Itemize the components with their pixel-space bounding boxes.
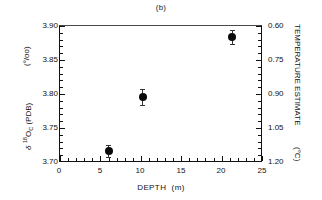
y-left-tick-label: 3.70 (0, 157, 58, 166)
y-right-tick-label: 1.05 (268, 123, 284, 132)
y-right-minor-tick (258, 53, 261, 54)
y-left-major-tick (60, 60, 65, 61)
carbonate-subscript: C (28, 127, 34, 131)
y-right-minor-tick (258, 33, 261, 34)
x-tick-label: 25 (247, 166, 277, 175)
x-minor-tick (149, 158, 150, 161)
y-left-minor-tick (60, 101, 63, 102)
y-left-minor-tick (60, 53, 63, 54)
y-right-minor-tick (258, 148, 261, 149)
y-right-minor-tick (258, 101, 261, 102)
y-left-major-tick (60, 128, 65, 129)
y-right-minor-tick (258, 80, 261, 81)
y-right-minor-tick (258, 114, 261, 115)
y-left-minor-tick (60, 148, 63, 149)
error-bar-cap (140, 89, 145, 90)
y-left-tick-label: 3.80 (0, 89, 58, 98)
x-minor-tick (189, 158, 190, 161)
delta-symbol: δ (24, 146, 33, 150)
y-right-tick-label: 0.90 (268, 89, 284, 98)
y-left-minor-tick (60, 74, 63, 75)
x-major-tick (141, 156, 142, 161)
y-right-minor-tick (258, 155, 261, 156)
x-minor-tick (173, 158, 174, 161)
error-bar-cap (106, 145, 111, 146)
x-minor-tick (76, 158, 77, 161)
x-minor-tick (133, 158, 134, 161)
y-right-minor-tick (258, 74, 261, 75)
x-axis-title: DEPTH (m) (0, 183, 322, 192)
x-major-tick (60, 156, 61, 161)
x-major-tick (100, 156, 101, 161)
y-left-axis-title: δ 18OC (PDB) (22, 103, 34, 150)
x-minor-tick (254, 158, 255, 161)
x-major-tick (262, 156, 263, 161)
y-right-minor-tick (258, 135, 261, 136)
y-left-minor-tick (60, 114, 63, 115)
y-right-tick-label: 0.75 (268, 55, 284, 64)
y-right-major-tick (256, 128, 261, 129)
x-minor-tick (165, 158, 166, 161)
x-axis-title-text: DEPTH (137, 183, 166, 192)
x-minor-tick (125, 158, 126, 161)
x-tick-label: 5 (85, 166, 115, 175)
x-minor-tick (214, 158, 215, 161)
y-left-major-tick (60, 94, 65, 95)
x-minor-tick (230, 158, 231, 161)
x-minor-tick (117, 158, 118, 161)
panel-title: (b) (0, 3, 322, 12)
y-left-minor-tick (60, 67, 63, 68)
x-major-tick (222, 156, 223, 161)
data-point (139, 93, 147, 101)
x-minor-tick (92, 158, 93, 161)
y-right-major-tick (256, 60, 261, 61)
y-left-minor-tick (60, 108, 63, 109)
y-right-minor-tick (258, 40, 261, 41)
data-point (228, 33, 236, 41)
y-right-major-tick (256, 161, 261, 162)
x-tick-label: 10 (125, 166, 155, 175)
x-minor-tick (197, 158, 198, 161)
y-left-major-tick (60, 26, 65, 27)
y-right-minor-tick (258, 87, 261, 88)
y-left-minor-tick (60, 80, 63, 81)
y-left-major-tick (60, 161, 65, 162)
error-bar-cap (230, 30, 235, 31)
y-left-minor-tick (60, 40, 63, 41)
plot-area (59, 25, 262, 162)
y-right-minor-tick (258, 142, 261, 143)
x-tick-label: 15 (166, 166, 196, 175)
y-right-axis-units: (°C) (293, 147, 302, 161)
x-minor-tick (84, 158, 85, 161)
error-bar-cap (140, 105, 145, 106)
x-minor-tick (157, 158, 158, 161)
y-left-minor-tick (60, 33, 63, 34)
y-right-minor-tick (258, 121, 261, 122)
y-right-tick-label: 1.20 (268, 157, 284, 166)
y-left-minor-tick (60, 121, 63, 122)
y-right-tick-label: 0.60 (268, 21, 284, 30)
oxygen-symbol: O (24, 131, 33, 137)
isotope-mass-number: 18 (22, 137, 28, 143)
y-right-minor-tick (258, 108, 261, 109)
y-right-major-tick (256, 26, 261, 27)
x-minor-tick (68, 158, 69, 161)
x-tick-label: 20 (206, 166, 236, 175)
y-right-major-tick (256, 94, 261, 95)
pdb-standard-label: (PDB) (24, 103, 33, 125)
x-major-tick (181, 156, 182, 161)
y-left-minor-tick (60, 87, 63, 88)
y-left-minor-tick (60, 142, 63, 143)
x-axis-title-unit: (m) (172, 183, 185, 192)
x-minor-tick (246, 158, 247, 161)
y-right-minor-tick (258, 46, 261, 47)
y-left-minor-tick (60, 135, 63, 136)
y-left-minor-tick (60, 46, 63, 47)
error-bar-cap (106, 157, 111, 158)
error-bar-cap (230, 44, 235, 45)
y-right-axis-title: TEMPERATURE ESTIMATE (293, 24, 302, 126)
y-left-tick-label: 3.90 (0, 21, 58, 30)
x-minor-tick (205, 158, 206, 161)
x-minor-tick (109, 158, 110, 161)
y-left-axis-units: (°/oo) (22, 46, 31, 66)
